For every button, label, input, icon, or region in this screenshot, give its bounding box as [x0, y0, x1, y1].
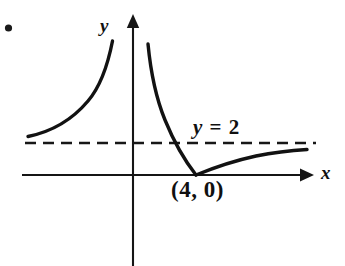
asymptote-label-value: 2 [229, 115, 241, 139]
curve-right-branch-ascending [196, 150, 307, 176]
curve-right-branch-descending [148, 44, 196, 175]
curve-left-branch [28, 41, 113, 137]
bullet-marker-icon [5, 24, 12, 31]
asymptote-label: y = 2 [193, 117, 240, 138]
y-axis-arrowhead-icon [127, 14, 139, 28]
x-axis-arrowhead-icon [300, 169, 314, 182]
asymptote-label-equals: = [210, 115, 223, 139]
asymptote-label-variable: y [193, 115, 203, 139]
x-intercept-label: (4, 0) [171, 178, 224, 201]
figure-canvas: y x y = 2 (4, 0) [0, 0, 345, 266]
y-axis-label: y [100, 16, 108, 35]
graph-svg [0, 0, 345, 266]
x-axis-label: x [321, 163, 331, 182]
